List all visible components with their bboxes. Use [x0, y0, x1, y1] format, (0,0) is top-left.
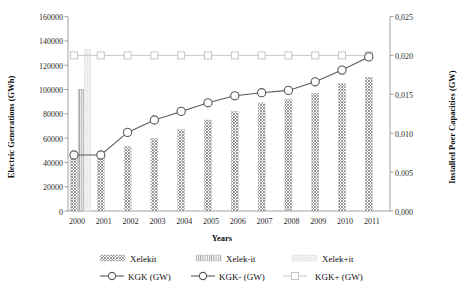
bar-xelek-plus-it-2000 [84, 49, 90, 211]
bar-xelekit-2006 [231, 112, 238, 212]
kgk-marker-2003 [150, 116, 158, 124]
legend-label-xelekit: Xelekit [130, 254, 157, 264]
x-tick-2011: 2011 [364, 217, 380, 226]
x-axis-title-text: Years [212, 233, 233, 243]
kgk-plus-marker-2009 [312, 52, 319, 59]
bars-xelek-minus-it [78, 90, 84, 212]
legend-row-lines: KGK (GW) KGK- (GW) KGK+ (GW) [100, 272, 363, 282]
bar-xelekit-2003 [151, 138, 158, 211]
x-tick-2000: 2000 [69, 217, 85, 226]
x-tick-2008: 2008 [283, 217, 299, 226]
x-tick-2001: 2001 [96, 217, 112, 226]
legend-label-kgk-minus: KGK- (GW) [219, 272, 265, 282]
y-tick-60000: 60000 [43, 135, 63, 144]
x-tick-2010: 2010 [337, 217, 353, 226]
y-tick-40000: 40000 [43, 159, 63, 168]
legend-marker-kgk-minus [199, 272, 206, 279]
kgk-plus-marker-2005 [205, 52, 212, 59]
legend-swatch-xelek-plus-it [292, 255, 317, 261]
y-tick-0: 0 [59, 208, 63, 217]
y2-tick-0010: 0,010 [395, 130, 413, 139]
kgk-marker-2005 [204, 99, 212, 107]
kgk-marker-2006 [231, 92, 239, 100]
y2-tick-0015: 0,015 [395, 91, 413, 100]
legend-marker-kgk [108, 272, 115, 279]
y2-tick-0000: 0,000 [395, 208, 413, 217]
bar-xelekit-2001 [97, 155, 104, 211]
legend-label-xelek-minus-it: Xelek-it [226, 254, 256, 264]
legend-swatch-xelek-minus-it [196, 255, 221, 261]
chart-svg: Electric Generations (GWh) Installed Poe… [0, 0, 467, 297]
y-tick-100000: 100000 [39, 86, 63, 95]
y-tick-20000: 20000 [43, 183, 63, 192]
x-tick-2002: 2002 [123, 217, 139, 226]
y-tick-80000: 80000 [43, 110, 63, 119]
kgk-marker-2008 [284, 86, 292, 94]
x-tick-2007: 2007 [257, 217, 273, 226]
x-tick-2003: 2003 [149, 217, 165, 226]
bar-xelekit-2007 [258, 103, 265, 211]
kgk-marker-2009 [311, 78, 319, 86]
y-tick-120000: 120000 [39, 62, 63, 71]
kgk-plus-marker-2008 [285, 52, 292, 59]
x-tick-2006: 2006 [230, 217, 246, 226]
y2-axis-title-text: Installed Poer Capacities (GW) [447, 70, 457, 184]
kgk-marker-2007 [258, 89, 266, 97]
y2-tick-0025: 0,025 [395, 13, 413, 22]
legend-label-kgk: KGK (GW) [128, 272, 171, 282]
kgk-plus-marker-2010 [339, 52, 346, 59]
y-tick-160000: 160000 [39, 13, 63, 22]
kgk-plus-marker-2001 [97, 52, 104, 59]
kgk-marker-2000 [70, 151, 78, 159]
legend-swatch-xelekit [100, 255, 125, 261]
kgk-marker-2010 [338, 66, 346, 74]
x-tick-2009: 2009 [310, 217, 326, 226]
bar-xelekit-2004 [178, 130, 185, 211]
kgk-plus-marker-2000 [71, 52, 78, 59]
kgk-plus-marker-2004 [178, 52, 185, 59]
x-tick-2005: 2005 [203, 217, 219, 226]
chart-figure: Electric Generations (GWh) Installed Poe… [0, 0, 467, 297]
kgk-marker-2004 [177, 107, 185, 115]
bar-xelek-minus-it-2000 [78, 90, 84, 212]
kgk-plus-marker-2006 [231, 52, 238, 59]
x-tick-2004: 2004 [176, 217, 192, 226]
bar-xelekit-2008 [285, 99, 292, 211]
bar-xelekit-2010 [339, 84, 346, 212]
legend-marker-kgk-plus [292, 273, 299, 280]
bar-xelekit-2011 [365, 77, 372, 211]
legend-label-xelek-plus-it: Xelek+it [322, 254, 354, 264]
bars-xelek-plus-it [84, 49, 90, 211]
bar-xelekit-2002 [124, 147, 131, 211]
y2-tick-0005: 0,005 [395, 169, 413, 178]
bar-xelekit-2005 [205, 120, 212, 211]
kgk-marker-2011 [365, 53, 373, 61]
kgk-marker-2002 [124, 128, 132, 136]
y-axis-title-text: Electric Generations (GWh) [6, 76, 16, 179]
kgk-marker-2001 [97, 151, 105, 159]
y2-tick-0020: 0,020 [395, 52, 413, 61]
legend-label-kgk-plus: KGK+ (GW) [315, 272, 363, 282]
y-tick-140000: 140000 [39, 37, 63, 46]
y-axis-title: Electric Generations (GWh) [6, 76, 16, 179]
y-axis-tick-labels: 0 20000 40000 60000 80000 100000 120000 … [39, 13, 63, 216]
kgk-plus-marker-2002 [124, 52, 131, 59]
bar-xelekit-2000 [71, 156, 78, 211]
y2-axis-title: Installed Poer Capacities (GW) [447, 70, 457, 184]
bar-xelekit-2009 [312, 93, 319, 211]
kgk-plus-marker-2007 [258, 52, 265, 59]
kgk-plus-marker-2003 [151, 52, 158, 59]
